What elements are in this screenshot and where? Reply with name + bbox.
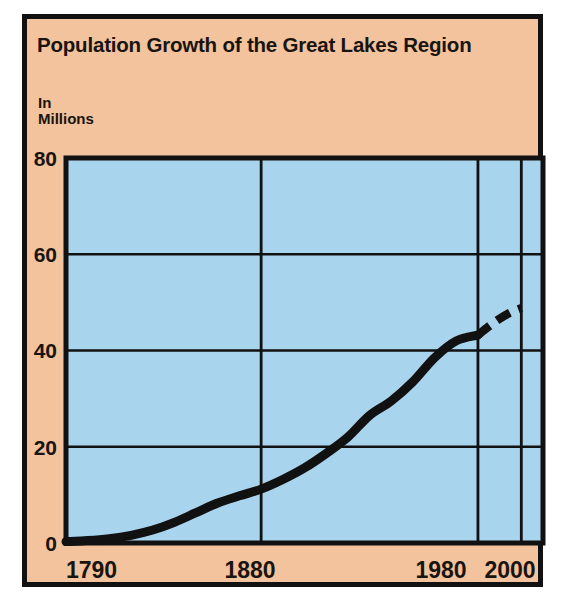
y-axis-label-line-1: In	[38, 94, 51, 111]
page-title: Population Growth of the Great Lakes Reg…	[37, 33, 537, 57]
y-axis-label-line-2: Millions	[38, 110, 94, 127]
chart-card: Population Growth of the Great Lakes Reg…	[22, 14, 543, 587]
y-axis-label: InMillions	[38, 95, 94, 127]
